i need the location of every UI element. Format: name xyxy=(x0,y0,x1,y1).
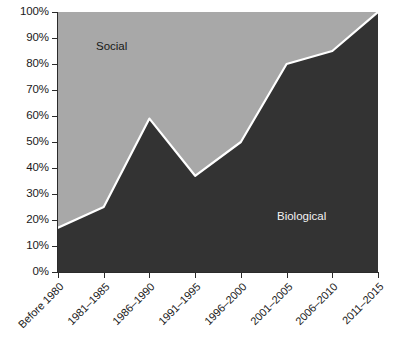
y-axis-tick-label: 100% xyxy=(3,6,49,18)
y-axis-tick xyxy=(52,246,57,247)
y-axis-tick-label: 0% xyxy=(3,266,49,278)
y-axis-tick xyxy=(52,194,57,195)
x-axis-tick xyxy=(149,272,150,278)
y-axis-tick xyxy=(52,90,57,91)
y-axis-tick-label: 60% xyxy=(3,110,49,122)
y-axis-tick xyxy=(52,38,57,39)
series-label-biological: Biological xyxy=(277,211,326,223)
x-axis-tick xyxy=(332,272,333,278)
y-axis-tick xyxy=(52,64,57,65)
y-axis-tick-label: 30% xyxy=(3,188,49,200)
y-axis-tick-label: 90% xyxy=(3,32,49,44)
x-axis-tick xyxy=(104,272,105,278)
y-axis-tick-label: 10% xyxy=(3,240,49,252)
y-axis-tick xyxy=(52,168,57,169)
y-axis-tick-label: 40% xyxy=(3,162,49,174)
series-label-social: Social xyxy=(96,41,127,53)
x-axis-tick xyxy=(378,272,379,278)
x-axis-line xyxy=(57,272,379,273)
x-axis-tick xyxy=(195,272,196,278)
y-axis-tick xyxy=(52,142,57,143)
y-axis-tick xyxy=(52,272,57,273)
y-axis-tick-label: 50% xyxy=(3,136,49,148)
y-axis-tick xyxy=(52,220,57,221)
x-axis-tick xyxy=(287,272,288,278)
area-chart: 0%10%20%30%40%50%60%70%80%90%100% Before… xyxy=(0,0,404,338)
y-axis-line xyxy=(57,12,58,273)
x-axis-tick xyxy=(58,272,59,278)
y-axis-tick-label: 70% xyxy=(3,84,49,96)
y-axis-tick-label: 20% xyxy=(3,214,49,226)
x-axis-tick xyxy=(241,272,242,278)
y-axis-tick-label: 80% xyxy=(3,58,49,70)
y-axis-tick xyxy=(52,12,57,13)
y-axis-tick xyxy=(52,116,57,117)
